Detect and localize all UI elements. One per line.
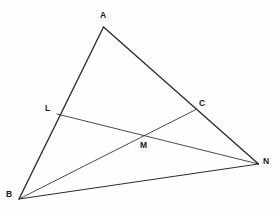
segment-L-N [57, 114, 259, 164]
segment-A-B [19, 27, 104, 199]
point-label-c: C [199, 99, 205, 108]
point-label-b: B [6, 190, 12, 199]
geometry-canvas [0, 0, 279, 211]
segment-B-N [19, 164, 259, 199]
point-label-l: L [45, 104, 50, 113]
geometry-figure: ABCLMN [0, 0, 279, 211]
point-label-m: M [140, 141, 147, 150]
point-label-n: N [263, 157, 269, 166]
point-label-a: A [100, 11, 106, 20]
segment-A-N [104, 27, 259, 164]
